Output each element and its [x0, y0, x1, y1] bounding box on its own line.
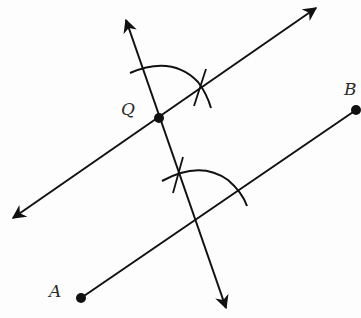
- label-a: A: [49, 283, 61, 300]
- transversal-line: [126, 20, 226, 308]
- segment-ab: [81, 110, 356, 298]
- point-a: [76, 293, 86, 303]
- label-q: Q: [121, 101, 135, 118]
- parallel-line-through-q: [13, 8, 316, 218]
- point-q: [154, 113, 164, 123]
- upper-construction-arc: [130, 66, 211, 108]
- point-b: [351, 105, 361, 115]
- construction-canvas: [0, 0, 361, 318]
- label-b: B: [344, 81, 357, 98]
- upper-crossmark: [194, 69, 206, 106]
- parallel-line-construction-diagram: A B Q: [0, 0, 361, 318]
